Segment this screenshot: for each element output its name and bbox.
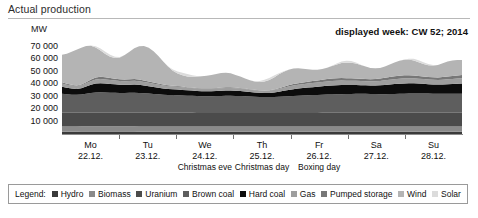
- legend-swatch-icon: [432, 191, 438, 197]
- legend-item-gas[interactable]: Gas: [291, 189, 316, 199]
- y-axis-tick-label: 70 000: [10, 42, 58, 51]
- legend-item-label: Biomass: [98, 189, 131, 199]
- page-title: Actual production: [8, 3, 470, 16]
- legend-item-wind[interactable]: Wind: [398, 189, 426, 199]
- legend-item-biomass[interactable]: Biomass: [89, 189, 131, 199]
- legend-item-solar[interactable]: Solar: [432, 189, 461, 199]
- x-axis-tick: [176, 135, 177, 139]
- x-axis-day-label: Mo22.12.: [62, 140, 119, 162]
- legend-swatch-icon: [89, 191, 95, 197]
- panel-header: Actual production: [8, 3, 470, 19]
- x-axis-tick: [119, 135, 120, 139]
- legend-item-label: Solar: [441, 189, 461, 199]
- displayed-week-label: displayed week: CW 52; 2014: [335, 26, 468, 37]
- stacked-area-plot: [62, 40, 462, 134]
- legend-swatch-icon: [52, 191, 58, 197]
- legend-title: Legend:: [15, 189, 46, 199]
- x-axis-tick: [291, 135, 292, 139]
- y-axis-tick-label: 20 000: [10, 104, 58, 113]
- x-axis-weekday: Sa: [348, 140, 405, 151]
- x-axis-tick: [348, 135, 349, 139]
- x-axis-day-label: Sa27.12.: [348, 140, 405, 162]
- chart-area: MW displayed week: CW 52; 2014 70 00060 …: [8, 24, 470, 176]
- x-axis-weekday: We: [176, 140, 233, 151]
- x-axis-ticks: [62, 135, 463, 139]
- x-axis-day-label: Fr26.12.: [291, 140, 348, 162]
- x-axis-day-label: Tu23.12.: [119, 140, 176, 162]
- y-axis-tick-label: 30 000: [10, 92, 58, 101]
- legend-item-hydro[interactable]: Hydro: [52, 189, 84, 199]
- x-axis-weekday: Su: [405, 140, 462, 151]
- x-axis-date: 24.12.: [176, 151, 233, 162]
- legend: Legend: HydroBiomassUraniumBrown coalHar…: [8, 184, 468, 204]
- x-axis-day-label: Su28.12.: [405, 140, 462, 162]
- area-series-biomass: [62, 126, 462, 132]
- x-axis-holiday-note: Boxing day: [281, 162, 357, 172]
- x-axis-date: 25.12.: [233, 151, 290, 162]
- area-series-uranium: [62, 113, 462, 127]
- legend-swatch-icon: [321, 191, 327, 197]
- x-axis-tick: [233, 135, 234, 139]
- legend-item-label: Uranium: [145, 189, 177, 199]
- y-axis-tick-label: 10 000: [10, 117, 58, 126]
- y-axis-tick-label: 40 000: [10, 79, 58, 88]
- legend-swatch-icon: [136, 191, 142, 197]
- x-axis-labels: Mo22.12.Tu23.12.We24.12.Christmas eveTh2…: [62, 140, 463, 174]
- area-series-hydro: [62, 132, 462, 134]
- x-axis-weekday: Mo: [62, 140, 119, 151]
- x-axis-date: 28.12.: [405, 151, 462, 162]
- y-axis-tick-labels: 70 00060 00050 00040 00030 00020 00010 0…: [8, 40, 58, 135]
- legend-item-label: Hydro: [61, 189, 84, 199]
- legend-item-label: Brown coal: [192, 189, 234, 199]
- legend-item-uranium[interactable]: Uranium: [136, 189, 177, 199]
- x-axis-date: 22.12.: [62, 151, 119, 162]
- y-axis-tick-label: 60 000: [10, 54, 58, 63]
- x-axis-day-label: Th25.12.: [233, 140, 290, 162]
- legend-item-label: Hard coal: [249, 189, 285, 199]
- legend-swatch-icon: [240, 191, 246, 197]
- actual-production-chart-panel: Actual production MW displayed week: CW …: [0, 0, 478, 218]
- legend-item-brown-coal[interactable]: Brown coal: [183, 189, 234, 199]
- header-divider: [8, 18, 470, 19]
- x-axis-date: 23.12.: [119, 151, 176, 162]
- legend-item-pumped-storage[interactable]: Pumped storage: [321, 189, 392, 199]
- legend-swatch-icon: [291, 191, 297, 197]
- legend-swatch-icon: [183, 191, 189, 197]
- legend-item-hard-coal[interactable]: Hard coal: [240, 189, 285, 199]
- x-axis-weekday: Tu: [119, 140, 176, 151]
- x-axis-date: 27.12.: [348, 151, 405, 162]
- x-axis-weekday: Th: [233, 140, 290, 151]
- x-axis-tick: [405, 135, 406, 139]
- y-axis-unit-label: MW: [31, 24, 47, 34]
- legend-swatch-icon: [398, 191, 404, 197]
- x-axis-date: 26.12.: [291, 151, 348, 162]
- x-axis-day-label: We24.12.: [176, 140, 233, 162]
- legend-item-list: HydroBiomassUraniumBrown coalHard coalGa…: [52, 189, 461, 199]
- y-axis-tick-label: 50 000: [10, 67, 58, 76]
- legend-item-label: Pumped storage: [330, 189, 392, 199]
- stacked-area-svg: [62, 40, 462, 134]
- legend-item-label: Wind: [407, 189, 426, 199]
- legend-item-label: Gas: [300, 189, 316, 199]
- x-axis-weekday: Fr: [291, 140, 348, 151]
